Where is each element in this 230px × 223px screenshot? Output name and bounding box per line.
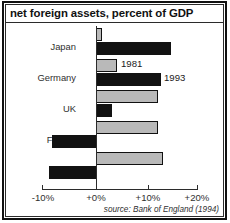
x-axis-line: [42, 189, 198, 190]
bar-us-1993: [49, 166, 96, 179]
x-axis-label-0: +0%: [79, 192, 113, 203]
x-axis-tick-20: [197, 185, 198, 189]
series-label-1981: 1981: [121, 58, 142, 69]
bar-germany-1993: [96, 73, 161, 86]
bar-us-1981: [96, 152, 163, 165]
x-axis-tick--10: [42, 185, 43, 189]
x-axis-label-10: +10%: [129, 192, 167, 203]
x-axis-label-20: +20%: [178, 192, 216, 203]
bar-japan-1993: [96, 42, 171, 55]
chart-figure: net foreign assets, percent of GDP Japan…: [0, 0, 230, 223]
bar-france-1993: [52, 135, 96, 148]
x-axis-label--10: -10%: [26, 192, 60, 203]
x-axis-tick-10: [148, 185, 149, 189]
bar-france-1981: [96, 121, 158, 134]
zero-axis-line: [96, 26, 97, 189]
category-label-japan: Japan: [14, 41, 76, 52]
category-label-germany: Germany: [14, 72, 76, 83]
bar-germany-1981: [96, 59, 117, 72]
plot-area: Japan Germany UK France U.S. 1981 1993 -…: [0, 0, 230, 223]
source-note: source: Bank of England (1994): [64, 205, 219, 214]
bar-uk-1981: [96, 90, 158, 103]
series-label-1993: 1993: [164, 72, 185, 83]
bar-uk-1993: [96, 104, 112, 117]
category-label-uk: UK: [14, 103, 76, 114]
x-axis-tick-0: [96, 185, 97, 189]
